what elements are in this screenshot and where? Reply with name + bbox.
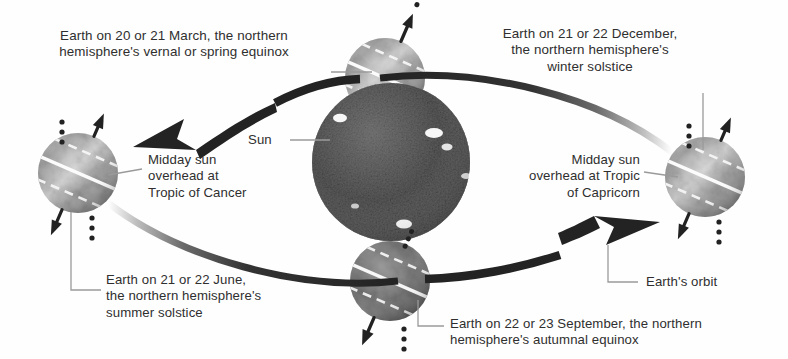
label-earths-orbit: Earth's orbit <box>646 274 756 290</box>
earth-axis-dots-june-below <box>89 215 94 240</box>
earth-axis-dots-december-above <box>686 123 691 148</box>
earth-axis-dots-september-below <box>401 326 406 351</box>
label-december-solstice: Earth on 21 or 22 December, the northern… <box>474 26 706 75</box>
label-sun: Sun <box>248 132 294 148</box>
label-tropic-of-cancer: Midday sun overhead at Tropic of Cancer <box>148 152 298 201</box>
earth-december-solstice <box>650 115 759 244</box>
leader-june <box>71 212 101 290</box>
label-march-equinox: Earth on 20 or 21 March, the northern he… <box>20 28 328 61</box>
leader-orbit <box>608 245 638 282</box>
earth-axis-dots-june-above <box>59 119 64 144</box>
earth-axis-arrow-march <box>396 0 429 44</box>
label-june-solstice: Earth on 21 or 22 June, the northern hem… <box>106 272 336 321</box>
label-tropic-of-capricorn: Midday sun overhead at Tropic of Caprico… <box>488 152 640 201</box>
earth-september-equinox <box>335 227 444 352</box>
label-september-equinox: Earth on 22 or 23 September, the norther… <box>450 316 780 349</box>
earth-axis-dots-december-below <box>716 219 721 244</box>
diagram-canvas: Earth on 20 or 21 March, the northern he… <box>0 0 788 359</box>
sun-sphere <box>312 83 471 241</box>
